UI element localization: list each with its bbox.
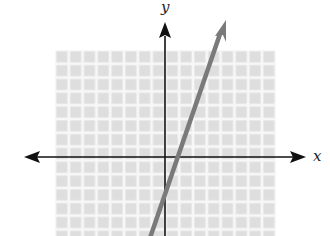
x-axis-label: x — [313, 147, 321, 165]
y-axis-label: y — [161, 0, 169, 16]
coordinate-plane — [0, 0, 330, 236]
y-axis-up-arrow-icon — [159, 22, 171, 38]
